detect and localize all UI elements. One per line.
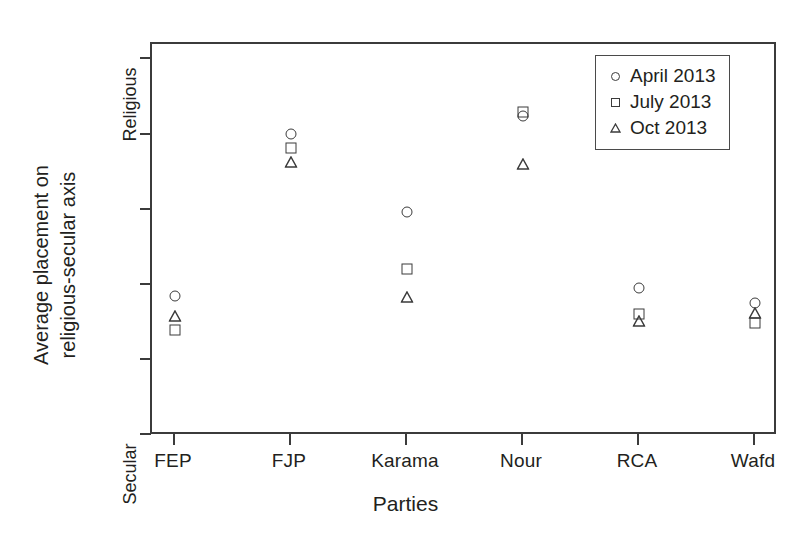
data-point-square (518, 106, 529, 117)
data-point-triangle (401, 291, 414, 303)
x-axis-tick (173, 434, 175, 445)
data-point-circle (634, 282, 645, 293)
data-point-triangle (169, 310, 182, 322)
data-point-triangle (633, 315, 646, 327)
y-axis-title: Average placement on religious-secular a… (28, 100, 82, 430)
x-axis-tick (289, 434, 291, 445)
y-axis-title-line2: religious-secular axis (55, 100, 82, 430)
x-axis-label-fep: FEP (154, 450, 192, 472)
legend-item-july-2013[interactable]: July 2013 (607, 89, 716, 115)
data-point-circle (402, 207, 413, 218)
x-axis-label-karama: Karama (371, 450, 439, 472)
x-axis-tick (521, 434, 523, 445)
data-point-triangle (749, 307, 762, 319)
data-point-triangle (517, 158, 530, 170)
x-axis-title: Parties (0, 492, 811, 516)
legend-label: Oct 2013 (630, 117, 707, 139)
circle-marker-icon (607, 72, 623, 81)
x-axis-tick (405, 434, 407, 445)
legend: April 2013 July 2013 Oct 2013 (595, 55, 730, 150)
legend-label: July 2013 (630, 91, 711, 113)
triangle-marker-icon (607, 123, 623, 133)
x-axis-label-wafd: Wafd (731, 450, 775, 472)
scatter-chart-figure: Average placement on religious-secular a… (0, 0, 811, 543)
y-axis-top-label: Religious (0, 57, 130, 78)
x-axis-tick (637, 434, 639, 445)
data-point-triangle (285, 156, 298, 168)
y-axis-bottom-label: Secular (0, 433, 130, 454)
data-point-circle (170, 290, 181, 301)
x-axis-label-rca: RCA (617, 450, 658, 472)
x-axis-label-fjp: FJP (272, 450, 306, 472)
legend-label: April 2013 (630, 65, 716, 87)
legend-item-april-2013[interactable]: April 2013 (607, 63, 716, 89)
y-axis-title-line1: Average placement on (28, 100, 55, 430)
legend-item-oct-2013[interactable]: Oct 2013 (607, 115, 716, 141)
data-point-square (402, 264, 413, 275)
data-point-square (170, 325, 181, 336)
data-point-square (286, 143, 297, 154)
data-point-circle (286, 128, 297, 139)
x-axis-label-nour: Nour (500, 450, 542, 472)
x-axis-tick (753, 434, 755, 445)
square-marker-icon (607, 98, 623, 107)
